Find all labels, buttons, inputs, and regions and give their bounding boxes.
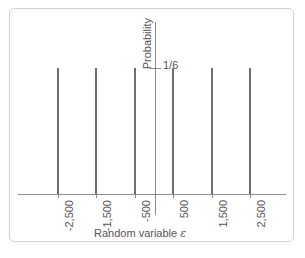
bar-spike <box>172 68 174 194</box>
x-axis-tick-label: 2,500 <box>255 200 267 228</box>
bar-spike <box>57 68 59 194</box>
bar-spike <box>134 68 136 194</box>
x-axis-title: Random variable ε <box>94 227 186 240</box>
x-axis-tick-mark <box>135 194 136 198</box>
x-axis-title-text: Random variable <box>94 227 177 239</box>
y-axis-tick-label: 1/6 <box>163 59 178 71</box>
plot-area: 1/6 Probability -2,500 -1,500 -500 500 1… <box>0 0 305 258</box>
x-axis-tick-label: 500 <box>178 200 190 218</box>
y-axis-line <box>155 22 156 215</box>
figure-container: 1/6 Probability -2,500 -1,500 -500 500 1… <box>0 0 305 258</box>
x-axis-tick-label: -2,500 <box>63 200 75 231</box>
x-axis-tick-label: -500 <box>140 200 152 222</box>
x-axis-tick-mark <box>212 194 213 198</box>
y-axis-title: Probability <box>141 18 153 69</box>
bar-spike <box>249 68 251 194</box>
x-axis-tick-mark <box>250 194 251 198</box>
x-axis-title-symbol: ε <box>180 227 186 240</box>
x-axis-tick-mark <box>58 194 59 198</box>
bar-spike <box>211 68 213 194</box>
x-axis-tick-label: 1,500 <box>217 200 229 228</box>
x-axis-tick-mark <box>96 194 97 198</box>
bar-spike <box>95 68 97 194</box>
x-axis-tick-mark <box>173 194 174 198</box>
